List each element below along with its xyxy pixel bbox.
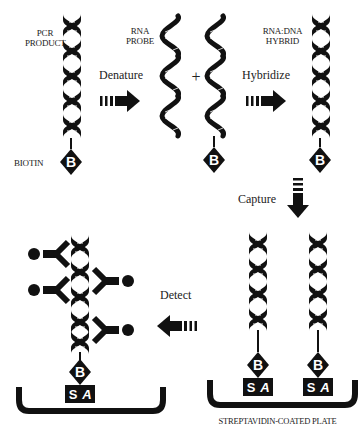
plate-well-right (210, 380, 355, 405)
denature-arrow-icon (100, 90, 140, 112)
streptavidin-icon (65, 385, 95, 403)
biotin-icon (60, 149, 82, 175)
label-line: PCR (25, 28, 65, 38)
step-capture-label: Capture (238, 192, 276, 207)
biotin-icon (69, 359, 91, 385)
biotinylated-strand (207, 16, 224, 136)
biotin-icon (203, 147, 225, 173)
step-detect-label: Detect (160, 288, 191, 303)
pcr-product-label: PCR PRODUCT (25, 28, 65, 48)
antibody-icon (28, 278, 68, 302)
hybrid-helix (312, 14, 330, 138)
label-line: PRODUCT (25, 38, 65, 48)
biotin-icon (309, 147, 331, 173)
rna-probe-label: RNA PROBE (125, 26, 155, 46)
streptavidin-icon (243, 378, 273, 396)
rna-probe-strand (162, 16, 179, 136)
capture-arrow-icon (287, 178, 309, 218)
step-hybridize-label: Hybridize (242, 68, 290, 83)
rna-dna-hybrid-label: RNA:DNA HYBRID (260, 26, 305, 46)
antibody-icon (94, 269, 134, 293)
plate-label: STREPTAVIDIN-COATED PLATE (200, 416, 355, 426)
label-line: HYBRID (260, 36, 305, 46)
diagram-canvas: B S A (0, 0, 359, 433)
captured-helix-2 (309, 232, 327, 331)
label-line: RNA (125, 26, 155, 36)
biotin-icon (307, 352, 329, 378)
biotin-icon (247, 352, 269, 378)
captured-helix-1 (249, 232, 267, 331)
label-line: PROBE (125, 36, 155, 46)
label-line: RNA:DNA (260, 26, 305, 36)
antibody-icon (94, 318, 134, 342)
step-denature-label: Denature (99, 68, 143, 83)
detect-arrow-icon (157, 315, 197, 337)
biotin-label: BIOTIN (14, 158, 43, 168)
pcr-product-helix (63, 14, 81, 138)
streptavidin-icon (303, 378, 333, 396)
hybridize-arrow-icon (246, 90, 286, 112)
detected-helix (71, 235, 89, 354)
antibody-icon (28, 242, 68, 266)
plus-sign: + (191, 68, 200, 85)
